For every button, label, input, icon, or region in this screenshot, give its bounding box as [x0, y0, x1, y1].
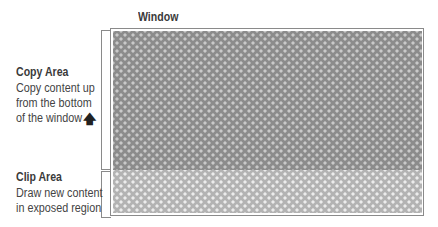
- clip-area-bracket: [101, 171, 111, 218]
- window-title: Window: [138, 10, 178, 24]
- copy-area-title: Copy Area: [16, 65, 68, 79]
- copy-area-bracket: [101, 30, 111, 170]
- clip-region: [113, 170, 422, 213]
- copy-area-line-2: from the bottom: [16, 96, 92, 111]
- clip-area-title: Clip Area: [16, 170, 62, 184]
- copy-area-line-1: Copy content up: [16, 81, 95, 96]
- clip-area-line-1: Draw new content: [16, 186, 102, 201]
- copy-area-line-3: of the window: [16, 111, 82, 126]
- arrow-up-icon: 🡅: [83, 109, 96, 131]
- copy-region: [113, 31, 422, 170]
- clip-area-line-2: in exposed region: [16, 201, 101, 216]
